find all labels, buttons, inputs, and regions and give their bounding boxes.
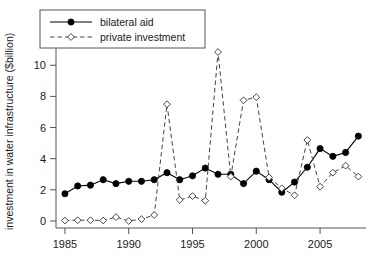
data-point-marker xyxy=(62,191,68,197)
y-tick-label: 10 xyxy=(34,59,46,71)
data-point-marker xyxy=(240,181,246,187)
legend-label: bilateral aid xyxy=(100,16,154,28)
chart-container: investment in water infrastructure ($bil… xyxy=(0,0,375,269)
data-point-marker xyxy=(342,149,348,155)
chart-legend: bilateral aidprivate investment xyxy=(40,10,205,48)
data-point-marker xyxy=(317,145,323,151)
water-investment-line-chart: investment in water infrastructure ($bil… xyxy=(0,0,375,269)
y-tick-label: 0 xyxy=(40,215,46,227)
data-point-marker xyxy=(151,177,157,183)
legend-label: private investment xyxy=(100,31,185,43)
data-point-marker xyxy=(189,173,195,179)
data-point-marker xyxy=(100,177,106,183)
data-point-marker xyxy=(75,183,81,189)
x-tick-label: 2005 xyxy=(308,238,332,250)
y-axis-title: investment in water infrastructure ($bil… xyxy=(3,33,15,230)
y-tick-label: 6 xyxy=(40,122,46,134)
data-point-marker xyxy=(113,181,119,187)
data-point-marker xyxy=(164,170,170,176)
x-tick-label: 1985 xyxy=(53,238,77,250)
data-point-marker xyxy=(304,164,310,170)
data-point-marker xyxy=(215,171,221,177)
x-tick-label: 1995 xyxy=(180,238,204,250)
data-point-marker xyxy=(87,182,93,188)
data-point-marker xyxy=(253,168,259,174)
data-point-marker xyxy=(138,178,144,184)
y-tick-label: 2 xyxy=(40,184,46,196)
data-point-marker xyxy=(126,178,132,184)
legend-marker xyxy=(68,19,74,25)
y-tick-label: 4 xyxy=(40,153,46,165)
y-tick-label: 8 xyxy=(40,90,46,102)
x-tick-label: 2000 xyxy=(244,238,268,250)
data-point-marker xyxy=(291,179,297,185)
data-point-marker xyxy=(330,153,336,159)
data-point-marker xyxy=(355,133,361,139)
x-tick-label: 1990 xyxy=(116,238,140,250)
